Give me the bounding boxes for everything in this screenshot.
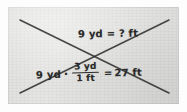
multiplication-dot: · [63,69,70,80]
scanned-figure-page: 9 yd = ? ft 9 yd · 3 yd 1 ft = 27 ft [0,0,187,112]
crossed-lines-diagram [0,0,187,112]
bottom-equation-left-term: 9 yd [36,69,61,81]
equals-sign: = [102,68,113,79]
top-equation-text: 9 yd = ? ft [78,27,138,39]
top-equation: 9 yd = ? ft [78,27,138,39]
bottom-equation-result: 27 ft [114,67,142,79]
fraction-numerator: 3 yd [72,62,99,72]
fraction-denominator: 1 ft [74,74,97,84]
conversion-fraction: 3 yd 1 ft [72,62,99,84]
bottom-equation: 9 yd · 3 yd 1 ft = 27 ft [36,62,142,86]
